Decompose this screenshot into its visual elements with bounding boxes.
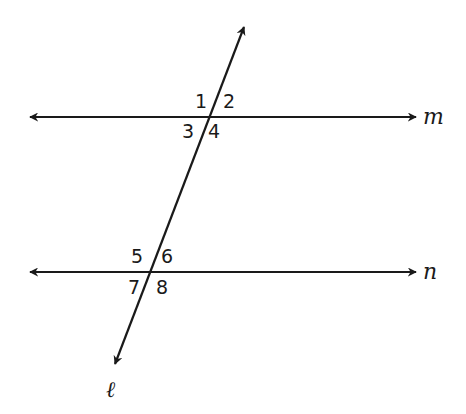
angle-5-label: 5	[131, 245, 143, 267]
line-m-label: m	[423, 104, 444, 129]
angle-1-label: 1	[195, 90, 207, 112]
transversal-l	[115, 27, 244, 364]
angle-3-label: 3	[182, 120, 194, 142]
angle-7-label: 7	[128, 276, 140, 298]
angle-4-label: 4	[208, 120, 220, 142]
parallel-lines-diagram: m n ℓ 1 2 3 4 5 6 7 8	[0, 0, 466, 414]
angle-2-label: 2	[223, 90, 235, 112]
angle-6-label: 6	[161, 245, 173, 267]
line-n-label: n	[423, 259, 437, 284]
angle-8-label: 8	[156, 276, 168, 298]
transversal-label: ℓ	[106, 377, 116, 402]
